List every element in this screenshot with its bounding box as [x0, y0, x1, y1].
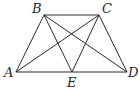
- geometry-figure: A B C D E: [0, 0, 140, 88]
- label-e: E: [66, 75, 77, 88]
- label-c: C: [102, 1, 112, 16]
- label-a: A: [3, 65, 13, 80]
- segment-ab: [16, 15, 44, 72]
- segment-be: [44, 15, 72, 72]
- segments: [16, 15, 127, 72]
- segment-ce: [72, 15, 99, 72]
- label-b: B: [31, 1, 42, 16]
- label-d: D: [127, 65, 139, 80]
- point-labels: A B C D E: [3, 1, 139, 88]
- segment-cd: [99, 15, 127, 72]
